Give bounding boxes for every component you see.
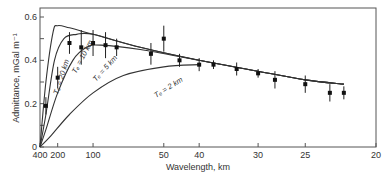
data-point xyxy=(342,91,346,95)
x-tick-label: 100 xyxy=(86,150,101,160)
x-tick-label: 50 xyxy=(159,150,169,160)
x-axis-label: Wavelength, km xyxy=(166,162,230,172)
y-axis-label: Admittance, mGal m⁻¹ xyxy=(11,33,21,123)
data-point xyxy=(273,78,277,82)
data-point xyxy=(104,43,108,47)
x-tick-label: 40 xyxy=(194,150,204,160)
x-tick-label: 30 xyxy=(253,150,263,160)
data-point xyxy=(235,67,239,71)
curve-te-5-km xyxy=(40,45,344,147)
data-point xyxy=(328,91,332,95)
x-tick-label: 20 xyxy=(371,150,381,160)
data-point xyxy=(303,82,307,86)
x-tick-label: 25 xyxy=(300,150,310,160)
data-point xyxy=(162,37,166,41)
y-tick-label: 0.6 xyxy=(24,12,37,22)
data-point xyxy=(178,58,182,62)
data-point xyxy=(44,104,48,108)
data-point xyxy=(67,41,71,45)
x-tick-label: 400 xyxy=(32,150,47,160)
y-tick-label: 0.4 xyxy=(24,55,37,65)
y-tick-label: 0.2 xyxy=(24,99,37,109)
curve-label: Tₑ = 2 km xyxy=(152,75,184,100)
x-tick-label: 200 xyxy=(50,150,65,160)
data-point xyxy=(211,63,215,67)
data-point xyxy=(256,71,260,75)
admittance-chart: 00.20.40.64002001005040302520Wavelength,… xyxy=(0,0,389,176)
data-point xyxy=(197,63,201,67)
data-point xyxy=(115,45,119,49)
data-point xyxy=(149,52,153,56)
curve-label: Tₑ = 20 km xyxy=(51,58,71,95)
curve-label: Tₑ = 10 km xyxy=(70,39,95,75)
